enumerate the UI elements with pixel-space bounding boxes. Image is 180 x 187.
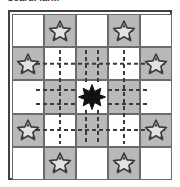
cell-r1c1[interactable] bbox=[12, 14, 44, 47]
board-caption: board: farm bbox=[8, 0, 59, 1]
cell-r3c2[interactable] bbox=[44, 80, 76, 113]
cell-r5c3[interactable] bbox=[76, 147, 108, 180]
grid-board[interactable] bbox=[8, 10, 172, 180]
cell-r1c3[interactable] bbox=[76, 14, 108, 47]
cell-r3c1[interactable] bbox=[12, 80, 44, 113]
cell-r1c2[interactable] bbox=[44, 14, 76, 47]
cell-r5c4[interactable] bbox=[108, 147, 140, 180]
cell-r4c2[interactable] bbox=[44, 114, 76, 147]
light-star-icon bbox=[111, 18, 137, 44]
cell-r2c3[interactable] bbox=[76, 47, 108, 80]
board-container bbox=[8, 10, 172, 180]
cell-r2c4[interactable] bbox=[108, 47, 140, 80]
light-star-icon bbox=[143, 117, 169, 143]
cell-r3c4[interactable] bbox=[108, 80, 140, 113]
light-star-icon bbox=[15, 51, 41, 77]
cell-r2c2[interactable] bbox=[44, 47, 76, 80]
cell-r5c5[interactable] bbox=[140, 147, 172, 180]
cell-r5c1[interactable] bbox=[12, 147, 44, 180]
cell-r2c1[interactable] bbox=[12, 47, 44, 80]
light-star-icon bbox=[143, 51, 169, 77]
light-star-icon bbox=[47, 18, 73, 44]
cell-r2c5[interactable] bbox=[140, 47, 172, 80]
cell-r1c4[interactable] bbox=[108, 14, 140, 47]
grid-cells[interactable] bbox=[12, 14, 172, 180]
cell-r4c1[interactable] bbox=[12, 114, 44, 147]
cell-r4c3[interactable] bbox=[76, 114, 108, 147]
cell-r4c5[interactable] bbox=[140, 114, 172, 147]
cell-r1c5[interactable] bbox=[140, 14, 172, 47]
light-star-icon bbox=[15, 117, 41, 143]
light-star-icon bbox=[47, 150, 73, 176]
cell-r3c5[interactable] bbox=[140, 80, 172, 113]
cell-r4c4[interactable] bbox=[108, 114, 140, 147]
light-star-icon bbox=[111, 150, 137, 176]
cell-r5c2[interactable] bbox=[44, 147, 76, 180]
cell-r3c3[interactable] bbox=[76, 80, 108, 113]
dark-star-icon bbox=[78, 83, 106, 111]
